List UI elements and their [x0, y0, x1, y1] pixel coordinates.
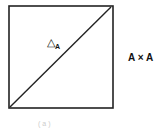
caption: (a) — [38, 120, 53, 127]
diagonal-line — [10, 7, 111, 107]
diagram-canvas — [0, 0, 163, 130]
diagonal-label: △A — [47, 36, 60, 50]
square-label: A × A — [128, 52, 153, 63]
delta-symbol: △ — [47, 36, 55, 48]
delta-subscript: A — [55, 43, 60, 50]
